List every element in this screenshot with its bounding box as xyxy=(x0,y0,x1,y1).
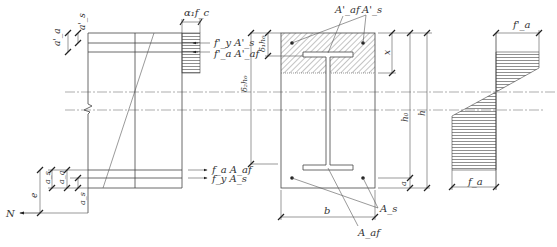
h0-label: h₀ xyxy=(400,112,410,122)
a-s-prime-label: a'_s xyxy=(77,13,88,30)
cross-section: A'_af A'_s A_s A_af b δ₁h₀ δ₂h₀ xyxy=(240,4,432,239)
A-af-label: A_af xyxy=(357,227,382,239)
src-column-diagram: α₁f_c f'_y A'_s f'_a A'_af f_a A_af f_y … xyxy=(0,0,557,247)
a-a-prime-label: a'_a xyxy=(52,28,63,46)
delta2-h0-label: δ₂h₀ xyxy=(240,75,249,92)
a-s-bottom-left-label: a_s xyxy=(43,171,52,184)
b-label: b xyxy=(324,205,330,216)
tension-stress-block xyxy=(452,92,496,170)
strain-line xyxy=(103,33,154,188)
fy-As-label: f_y A_s xyxy=(211,173,247,185)
a-s-bottom-right-label: a_s xyxy=(78,192,87,205)
compression-stress-block xyxy=(496,52,539,92)
h-label: h xyxy=(417,110,427,116)
a-a-bottom-label: a_a xyxy=(57,170,66,184)
fa-prime-Aaf-prime-label: f'_a A'_af xyxy=(213,48,262,60)
delta1-h0-label: δ₁h₀ xyxy=(258,35,267,52)
N-label: N xyxy=(5,208,16,219)
elevation-left-edge-with-break xyxy=(84,33,92,213)
A-s-label: A_s xyxy=(379,203,397,215)
fa-prime-label: f'_a xyxy=(512,19,530,31)
alpha1-fc-label: α₁f_c xyxy=(184,7,209,19)
steel-stress-diagram: f'_a f_a xyxy=(449,19,542,190)
x-label: x xyxy=(382,50,392,55)
elevation-view: α₁f_c f'_y A'_s f'_a A'_af f_a A_af f_y … xyxy=(5,7,262,219)
fa-label: f_a xyxy=(467,176,483,188)
concrete-stress-block xyxy=(182,33,200,73)
A-s-prime-label: A'_s xyxy=(361,4,382,16)
e-label: e xyxy=(29,193,39,198)
a-label: a xyxy=(399,181,408,186)
A-af-prime-label: A'_af xyxy=(334,4,362,16)
